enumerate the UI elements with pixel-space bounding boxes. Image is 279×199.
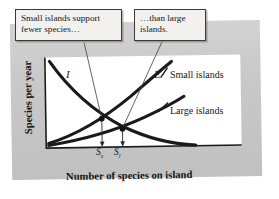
dropline-arrow-large-islands [120,141,125,147]
extinction-curve-large-islands [48,96,185,145]
large-islands-curve-label: Large islands [170,105,223,116]
figure-root: Small islands support fewer species… …th… [0,0,279,199]
leader-line-large-callout [122,42,163,127]
tick-label-small-equilibrium-subscript: s [101,152,103,159]
extinction-curve-label: E [154,68,161,80]
x-axis-title: Number of species on island [66,169,193,182]
immigration-curve-label: I [66,68,70,80]
callout-large-islands-line1: …than large [140,13,201,24]
tick-label-large-equilibrium-subscript: l [119,152,121,159]
callout-large-islands-line2: islands. [140,24,201,35]
tick-label-small-equilibrium: Ss [96,147,103,159]
callout-large-islands: …than large islands. [134,9,206,41]
callout-small-islands-line2: fewer species… [21,24,117,35]
tick-label-large-equilibrium: Sl [114,147,120,159]
callout-small-islands: Small islands support fewer species… [15,9,122,41]
y-axis-line [45,57,46,148]
callout-small-islands-line1: Small islands support [21,13,117,24]
x-axis-line [46,145,242,148]
y-axis-title: Species per year [22,47,35,147]
small-islands-curve-label: Small islands [170,69,224,80]
